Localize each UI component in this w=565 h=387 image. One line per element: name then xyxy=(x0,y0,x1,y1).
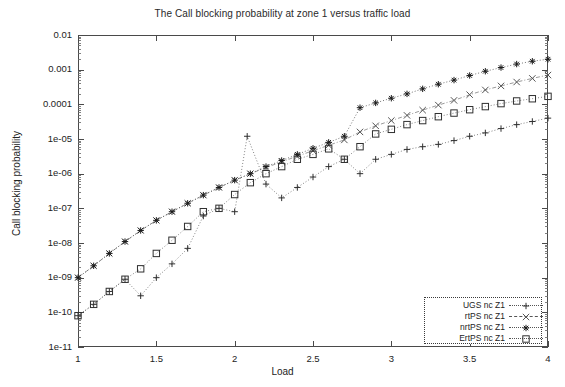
legend-item-nrtps: nrtPS nc Z1 xyxy=(425,322,543,333)
y-tick-minor xyxy=(545,157,548,158)
x-tick-mark xyxy=(391,341,392,347)
legend-marker-sample xyxy=(509,311,543,322)
y-tick-minor xyxy=(78,73,81,74)
y-tick-minor xyxy=(545,320,548,321)
y-tick-label: 1e-05 xyxy=(48,133,72,144)
y-tick-minor xyxy=(78,251,81,252)
y-tick-label: 1e-10 xyxy=(48,306,72,317)
y-tick-minor xyxy=(545,147,548,148)
y-tick-minor xyxy=(545,212,548,213)
x-tick-label: 4 xyxy=(528,353,565,364)
y-tick-minor xyxy=(78,177,81,178)
y-tick-minor xyxy=(78,337,81,338)
y-tick-minor xyxy=(545,283,548,284)
data-point-square xyxy=(523,335,529,341)
legend-marker-icon xyxy=(520,333,532,345)
y-tick-minor xyxy=(545,163,548,164)
chart-title: The Call blocking probability at zone 1 … xyxy=(0,8,565,19)
y-tick-label: 0.001 xyxy=(48,63,72,74)
legend-item-rtps: rtPS nc Z1 xyxy=(425,311,543,322)
y-tick-minor xyxy=(545,219,548,220)
y-tick-minor xyxy=(545,77,548,78)
x-tick-label: 2.5 xyxy=(293,353,333,364)
y-tick-minor xyxy=(545,115,548,116)
y-tick-minor xyxy=(78,83,81,84)
y-tick-minor xyxy=(78,115,81,116)
x-tick-label: 3.5 xyxy=(450,353,490,364)
y-tick-label: 0.01 xyxy=(54,29,73,40)
y-tick-minor xyxy=(545,291,548,292)
y-tick-label: 0.0001 xyxy=(43,98,72,109)
y-tick-minor xyxy=(545,43,548,44)
y-tick-minor xyxy=(78,283,81,284)
y-tick-minor xyxy=(78,214,81,215)
y-tick-minor xyxy=(545,198,548,199)
x-tick-label: 1.5 xyxy=(136,353,176,364)
y-tick-minor xyxy=(545,326,548,327)
y-tick-minor xyxy=(545,83,548,84)
y-tick-minor xyxy=(545,187,548,188)
y-axis-title: Call blocking probability xyxy=(11,114,22,254)
y-tick-label: 1e-06 xyxy=(48,167,72,178)
y-tick-label: 1e-07 xyxy=(48,202,72,213)
y-tick-minor xyxy=(78,222,81,223)
y-tick-minor xyxy=(78,210,81,211)
x-tick-mark xyxy=(548,341,549,347)
x-tick-mark xyxy=(313,341,314,347)
x-tick-mark xyxy=(313,35,314,41)
y-tick-minor xyxy=(78,184,81,185)
y-tick-minor xyxy=(78,257,81,258)
y-tick-minor xyxy=(78,181,81,182)
y-tick-minor xyxy=(78,53,81,54)
y-tick-minor xyxy=(78,326,81,327)
y-tick-minor xyxy=(78,281,81,282)
y-tick-minor xyxy=(78,330,81,331)
x-tick-mark xyxy=(78,35,79,41)
y-tick-minor xyxy=(545,75,548,76)
y-tick-minor xyxy=(545,141,548,142)
x-tick-label: 3 xyxy=(371,353,411,364)
y-tick-minor xyxy=(545,253,548,254)
y-tick-label: 1e-08 xyxy=(48,237,72,248)
x-tick-mark xyxy=(156,35,157,41)
y-tick-minor xyxy=(545,257,548,258)
x-tick-label: 1 xyxy=(58,353,98,364)
y-tick-minor xyxy=(78,198,81,199)
y-tick-minor xyxy=(78,296,81,297)
y-tick-minor xyxy=(545,296,548,297)
y-tick-label: 1e-11 xyxy=(48,341,72,352)
y-tick-minor xyxy=(545,233,548,234)
y-tick-minor xyxy=(78,163,81,164)
y-tick-minor xyxy=(78,216,81,217)
legend-label: rtPS nc Z1 xyxy=(425,311,509,322)
y-tick-minor xyxy=(78,179,81,180)
y-tick-minor xyxy=(545,122,548,123)
y-tick-minor xyxy=(78,291,81,292)
y-tick-minor xyxy=(78,320,81,321)
data-point-star xyxy=(523,324,529,330)
y-tick-minor xyxy=(78,106,81,107)
y-tick-minor xyxy=(78,233,81,234)
y-tick-minor xyxy=(78,129,81,130)
y-tick-minor xyxy=(545,222,548,223)
y-tick-minor xyxy=(545,59,548,60)
y-tick-minor xyxy=(78,245,81,246)
y-tick-minor xyxy=(545,149,548,150)
y-tick-minor xyxy=(78,110,81,111)
y-tick-mark xyxy=(78,347,84,348)
y-tick-minor xyxy=(545,88,548,89)
y-tick-minor xyxy=(545,288,548,289)
legend-item-ertps: ErtPS nc Z1 xyxy=(425,333,543,344)
y-tick-minor xyxy=(545,153,548,154)
x-tick-mark xyxy=(156,341,157,347)
y-tick-minor xyxy=(78,147,81,148)
y-tick-minor xyxy=(545,108,548,109)
y-tick-minor xyxy=(78,219,81,220)
y-tick-minor xyxy=(78,144,81,145)
y-tick-minor xyxy=(545,80,548,81)
y-tick-minor xyxy=(78,192,81,193)
y-tick-minor xyxy=(78,149,81,150)
y-tick-minor xyxy=(545,316,548,317)
chart-legend: UGS nc Z1rtPS nc Z1nrtPS nc Z1ErtPS nc Z… xyxy=(424,297,542,344)
y-tick-minor xyxy=(78,302,81,303)
